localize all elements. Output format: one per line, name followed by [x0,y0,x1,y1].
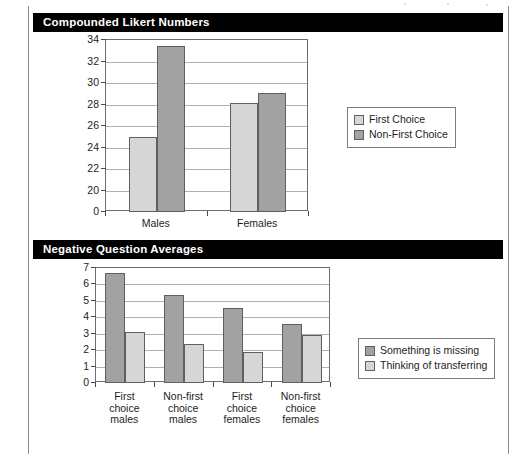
x-axis-tick-label: Firstchoicemales [95,391,154,426]
bar [157,46,185,212]
page-right-rule [508,6,509,454]
x-axis-tick-label: Males [105,218,207,230]
y-axis-tick-label: 30 [77,77,99,87]
y-axis-tick-mark [91,366,96,367]
y-axis-tick-mark [101,125,106,126]
bar [184,344,204,383]
chart-2-legend: Something is missingThinking of transfer… [358,338,495,379]
legend-swatch-icon [365,346,375,356]
bar [105,273,125,383]
x-axis-tick-label: Firstchoicefemales [213,391,272,426]
bar [164,295,184,383]
x-axis-tick-label: Females [207,218,309,230]
y-axis-tick-mark [101,61,106,62]
x-axis-tick-label: Non-firstchoicemales [154,391,213,426]
x-axis-tick-mark [271,382,272,387]
y-axis-tick-mark [91,267,96,268]
x-axis-tick-mark [207,211,208,216]
y-axis-tick-label: 7 [67,262,89,272]
page-left-rule [28,6,29,454]
figure-1-title: Compounded Likert Numbers [33,13,503,32]
gridline [96,301,329,302]
y-axis-tick-label: 0 [67,377,89,387]
legend-item: Thinking of transferring [365,358,487,373]
x-axis-tick-mark [213,382,214,387]
y-axis-tick-label: 2 [67,344,89,354]
bar [258,93,286,212]
y-axis-tick-label: 28 [77,99,99,109]
y-axis-tick-mark [101,168,106,169]
bar [282,324,302,383]
y-axis-tick-label: 3 [67,328,89,338]
y-axis-tick-mark [91,349,96,350]
bar [230,103,258,212]
y-axis-tick-label: 0 [77,206,99,216]
bar [302,335,322,383]
legend-swatch-icon [365,361,375,371]
legend-label: Non-First Choice [369,129,448,140]
y-axis-tick-label: 34 [77,34,99,44]
y-axis-tick-mark [91,283,96,284]
x-axis-tick-label: Non-firstchoicefemales [271,391,330,426]
legend-swatch-icon [354,130,364,140]
legend-label: First Choice [369,114,425,125]
y-axis-tick-label: 32 [77,56,99,66]
gridline [106,83,307,84]
legend-label: Something is missing [380,345,479,356]
y-axis-tick-mark [101,39,106,40]
y-axis-tick-label: 20 [77,185,99,195]
x-axis-tick-mark [308,211,309,216]
x-axis-tick-mark [154,382,155,387]
y-axis-tick-mark [91,333,96,334]
y-axis-tick-mark [101,104,106,105]
legend-item: Non-First Choice [354,127,448,142]
gridline [96,284,329,285]
chart-1-plot-area [105,39,308,211]
bar [129,137,157,212]
scanned-page: Compounded Likert Numbers 34323028262422… [0,0,531,457]
gridline [106,62,307,63]
y-axis-tick-label: 5 [67,295,89,305]
y-axis-tick-mark [101,190,106,191]
x-axis-tick-mark [105,211,106,216]
figure-2-title: Negative Question Averages [33,240,503,259]
bar [243,352,263,383]
legend-swatch-icon [354,115,364,125]
legend-label: Thinking of transferring [380,360,487,371]
y-axis-tick-mark [91,300,96,301]
y-axis-tick-mark [91,316,96,317]
bar [125,332,145,383]
y-axis-tick-mark [101,147,106,148]
y-axis-tick-label: 22 [77,163,99,173]
y-axis-tick-label: 26 [77,120,99,130]
chart-1-legend: First ChoiceNon-First Choice [347,107,456,148]
legend-item: Something is missing [365,343,487,358]
x-axis-tick-mark [330,382,331,387]
y-axis-tick-mark [101,82,106,83]
y-axis-tick-label: 6 [67,278,89,288]
chart-2-plot-area [95,267,330,382]
y-axis-tick-label: 24 [77,142,99,152]
gridline [96,317,329,318]
y-axis-tick-label: 1 [67,361,89,371]
y-axis-tick-label: 4 [67,311,89,321]
x-axis-tick-mark [95,382,96,387]
bar [223,308,243,383]
legend-item: First Choice [354,112,448,127]
